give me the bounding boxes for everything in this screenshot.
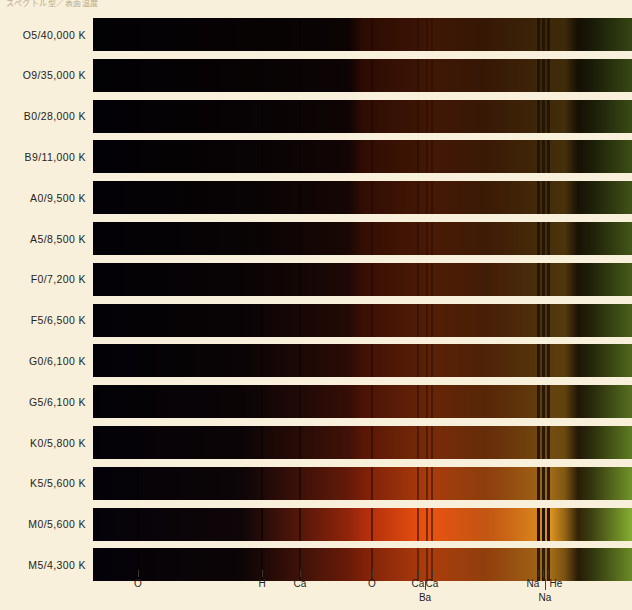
absorption-line: [537, 385, 540, 418]
absorption-line: [261, 18, 263, 51]
absorption-line-group: [93, 263, 632, 296]
absorption-line: [547, 222, 550, 255]
spectrum-strip: [93, 344, 632, 377]
absorption-line: [299, 222, 301, 255]
absorption-line: [417, 181, 419, 214]
spectrum-row: M0/5,600 K: [0, 508, 632, 541]
absorption-line: [542, 100, 545, 133]
absorption-line: [137, 385, 139, 418]
absorption-line: [431, 426, 433, 459]
absorption-line: [431, 304, 433, 337]
absorption-line: [537, 100, 540, 133]
spectrum-row: A0/9,500 K: [0, 181, 632, 214]
absorption-line: [371, 222, 373, 255]
absorption-line: [261, 344, 263, 377]
absorption-line: [431, 18, 433, 51]
axis-tick: [418, 570, 419, 577]
absorption-line: [542, 181, 545, 214]
spectral-type-label: M0/5,600 K: [0, 508, 86, 541]
absorption-line: [431, 344, 433, 377]
absorption-line: [426, 181, 428, 214]
absorption-line: [426, 100, 428, 133]
absorption-line: [542, 18, 545, 51]
absorption-line: [137, 508, 139, 541]
absorption-line: [426, 467, 428, 500]
absorption-line: [426, 263, 428, 296]
absorption-line: [547, 426, 550, 459]
absorption-line: [426, 59, 428, 92]
spectrum-row: G0/6,100 K: [0, 344, 632, 377]
absorption-line: [299, 508, 301, 541]
absorption-line: [261, 59, 263, 92]
absorption-line: [537, 222, 540, 255]
absorption-line: [431, 140, 433, 173]
absorption-line-group: [93, 426, 632, 459]
absorption-line: [299, 426, 301, 459]
absorption-line: [542, 263, 545, 296]
absorption-line: [547, 18, 550, 51]
absorption-line: [371, 344, 373, 377]
absorption-line: [261, 508, 263, 541]
absorption-line: [299, 344, 301, 377]
axis-tick: [548, 570, 549, 577]
spectral-type-label: G5/6,100 K: [0, 385, 86, 418]
spectrum-strip: [93, 304, 632, 337]
absorption-line: [426, 18, 428, 51]
absorption-line: [371, 59, 373, 92]
spectral-type-label: B0/28,000 K: [0, 100, 86, 133]
absorption-line: [431, 385, 433, 418]
absorption-line: [137, 181, 139, 214]
absorption-line: [542, 59, 545, 92]
absorption-line: [431, 100, 433, 133]
spectrum-strip: [93, 263, 632, 296]
absorption-line: [537, 467, 540, 500]
absorption-line-group: [93, 344, 632, 377]
absorption-line-group: [93, 467, 632, 500]
spectrum-row: K0/5,800 K: [0, 426, 632, 459]
spectral-type-label: K0/5,800 K: [0, 426, 86, 459]
spectral-type-label: A0/9,500 K: [0, 181, 86, 214]
absorption-line: [537, 181, 540, 214]
absorption-line-group: [93, 508, 632, 541]
axis-element-label: O: [358, 578, 386, 589]
spectrum-row: O5/40,000 K: [0, 18, 632, 51]
absorption-line: [417, 467, 419, 500]
spectrum-strip: [93, 508, 632, 541]
absorption-line: [371, 263, 373, 296]
absorption-line: [299, 18, 301, 51]
spectrum-row: G5/6,100 K: [0, 385, 632, 418]
absorption-line: [417, 263, 419, 296]
absorption-line: [137, 467, 139, 500]
absorption-line: [547, 385, 550, 418]
absorption-line: [371, 385, 373, 418]
absorption-line: [537, 263, 540, 296]
absorption-line: [261, 140, 263, 173]
absorption-line: [542, 467, 545, 500]
absorption-line: [417, 304, 419, 337]
spectrum-strip: [93, 59, 632, 92]
spectrum-row: B0/28,000 K: [0, 100, 632, 133]
axis-element-label: H: [248, 578, 276, 589]
cropped-header-text: スペクトル型／表面温度: [6, 0, 126, 7]
absorption-line: [431, 508, 433, 541]
absorption-line: [426, 385, 428, 418]
absorption-line: [537, 344, 540, 377]
absorption-line: [299, 100, 301, 133]
axis-element-label: Ca: [286, 578, 314, 589]
spectrum-row: B9/11,000 K: [0, 140, 632, 173]
absorption-line: [261, 304, 263, 337]
absorption-line: [431, 467, 433, 500]
spectrum-strip: [93, 100, 632, 133]
absorption-line: [261, 385, 263, 418]
absorption-line: [431, 222, 433, 255]
absorption-line: [371, 467, 373, 500]
absorption-line: [417, 508, 419, 541]
absorption-line: [426, 426, 428, 459]
absorption-line: [137, 100, 139, 133]
absorption-line: [426, 222, 428, 255]
absorption-line: [137, 59, 139, 92]
absorption-line: [537, 508, 540, 541]
absorption-line: [542, 426, 545, 459]
absorption-line: [299, 385, 301, 418]
absorption-line: [537, 59, 540, 92]
